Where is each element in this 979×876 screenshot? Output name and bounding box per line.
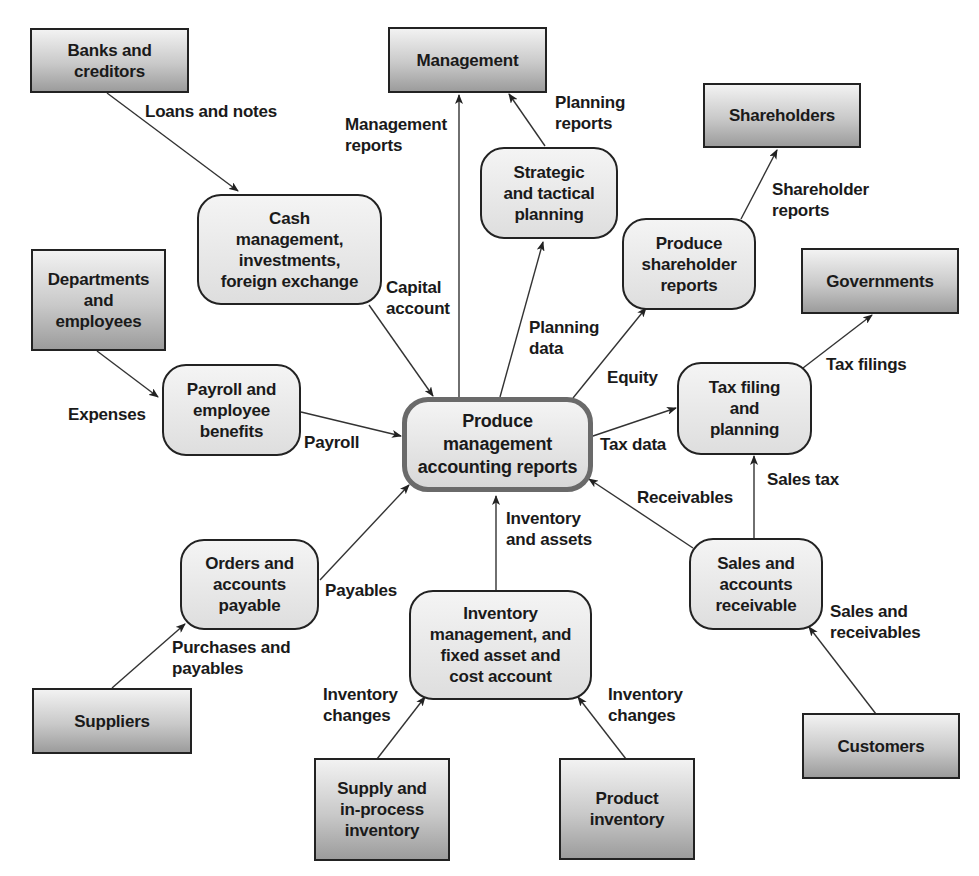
label-inventory-changes-right: Inventory changes <box>608 684 683 726</box>
arrow-departments-to-payroll <box>97 351 158 397</box>
label-payables: Payables <box>325 580 397 601</box>
label-planning-data: Planning data <box>529 317 599 359</box>
label-payroll: Payroll <box>304 432 359 453</box>
label-inventory-changes-left: Inventory changes <box>323 684 398 726</box>
process-tax-filing: Tax filing and planning <box>677 362 812 455</box>
entity-management: Management <box>388 27 547 93</box>
process-inventory-management: Inventory management, and fixed asset an… <box>409 590 592 700</box>
label-equity: Equity <box>607 367 658 388</box>
label-management-reports: Management reports <box>345 114 447 156</box>
label-receivables: Receivables <box>637 487 733 508</box>
entity-shareholders: Shareholders <box>703 83 861 148</box>
label-purchases-and-payables: Purchases and payables <box>172 637 290 679</box>
entity-banks-and-creditors: Banks and creditors <box>30 28 189 93</box>
label-inventory-and-assets: Inventory and assets <box>506 508 592 550</box>
arrow-orders-to-center <box>320 485 409 580</box>
label-planning-reports: Planning reports <box>555 92 625 134</box>
entity-supply-and-in-process-inventory: Supply and in-process inventory <box>314 758 450 861</box>
arrow-strategic-to-management <box>509 94 545 146</box>
entity-product-inventory: Product inventory <box>559 758 695 860</box>
entity-governments: Governments <box>801 248 959 314</box>
process-orders-payable: Orders and accounts payable <box>180 539 319 630</box>
label-shareholder-reports: Shareholder reports <box>772 179 869 221</box>
label-loans-and-notes: Loans and notes <box>145 101 277 122</box>
entity-suppliers: Suppliers <box>32 688 192 754</box>
process-sales-receivable: Sales and accounts receivable <box>689 538 823 630</box>
entity-customers: Customers <box>802 713 960 779</box>
process-produce-shareholder-reports: Produce shareholder reports <box>622 218 756 310</box>
label-capital-account: Capital account <box>386 277 450 319</box>
process-payroll: Payroll and employee benefits <box>162 364 301 456</box>
entity-departments-and-employees: Departments and employees <box>31 249 166 351</box>
label-expenses: Expenses <box>68 404 146 425</box>
process-produce-management-accounting-reports: Produce management accounting reports <box>402 397 593 492</box>
label-sales-tax: Sales tax <box>767 469 839 490</box>
label-tax-filings: Tax filings <box>826 354 907 375</box>
arrow-center-to-tax <box>590 408 676 437</box>
process-cash-management: Cash management, investments, foreign ex… <box>197 194 382 305</box>
label-tax-data: Tax data <box>600 434 666 455</box>
process-strategic-planning: Strategic and tactical planning <box>480 147 618 239</box>
label-sales-and-receivables: Sales and receivables <box>830 601 920 643</box>
